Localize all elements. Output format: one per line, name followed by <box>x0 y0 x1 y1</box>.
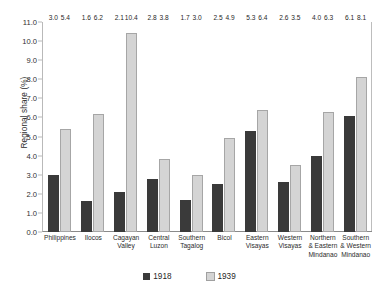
bar-column: 2.5 <box>212 22 223 232</box>
bar-value-label: 4.9 <box>225 14 234 21</box>
bar-value-label: 2.8 <box>148 14 157 21</box>
y-tick-mark <box>38 136 42 137</box>
y-tick-label: 5.0 <box>0 132 42 141</box>
bar-1918: 3.0 <box>48 175 59 232</box>
bar-value-label: 3.0 <box>192 14 201 21</box>
bar-1939: 3.0 <box>192 175 203 232</box>
bar-column: 3.0 <box>192 22 203 232</box>
bar-value-label: 1.6 <box>82 14 91 21</box>
y-tick-mark <box>38 79 42 80</box>
bar-1918: 1.6 <box>81 201 92 232</box>
y-tick-label: 9.0 <box>0 56 42 65</box>
y-tick-mark <box>38 212 42 213</box>
bar-1918: 5.3 <box>245 131 256 232</box>
x-tick-label: Eastern Visayas <box>241 234 274 259</box>
bar-value-label: 6.3 <box>324 14 333 21</box>
legend-swatch-icon <box>143 273 150 280</box>
bar-1918: 2.5 <box>212 184 223 232</box>
bar-1939: 8.1 <box>356 77 367 232</box>
bar-group: 4.06.3 <box>306 22 339 232</box>
bar-group: 2.54.9 <box>208 22 241 232</box>
bar-column: 5.3 <box>245 22 256 232</box>
legend-swatch-icon <box>206 272 215 281</box>
y-tick-label: 6.0 <box>0 113 42 122</box>
bar-column: 2.1 <box>114 22 125 232</box>
legend-item-1918[interactable]: 1918 <box>143 272 171 281</box>
x-tick-label: Southern Tagalog <box>175 234 208 259</box>
bar-1939: 6.4 <box>257 110 268 232</box>
legend-item-1939[interactable]: 1939 <box>206 272 236 281</box>
legend-label: 1939 <box>218 272 236 281</box>
legend-label: 1918 <box>153 272 171 281</box>
y-tick-mark <box>38 60 42 61</box>
bar-value-label: 4.0 <box>312 14 321 21</box>
y-tick-mark <box>38 193 42 194</box>
bar-column: 6.4 <box>257 22 268 232</box>
bar-1918: 6.1 <box>344 116 355 232</box>
bar-chart: Regional share (%) 11.010.09.08.07.06.05… <box>0 0 379 294</box>
bar-column: 6.1 <box>344 22 355 232</box>
bar-value-label: 5.4 <box>61 14 70 21</box>
y-tick-mark <box>38 155 42 156</box>
bar-value-label: 3.0 <box>49 14 58 21</box>
y-tick-mark <box>38 22 42 23</box>
bar-1939: 3.5 <box>290 165 301 232</box>
bar-value-label: 5.3 <box>246 14 255 21</box>
y-tick-label: 0.0 <box>0 228 42 237</box>
bar-value-label: 6.1 <box>345 14 354 21</box>
bar-group: 2.110.4 <box>109 22 142 232</box>
x-tick-label: Ilocos <box>77 234 110 259</box>
bar-value-label: 6.2 <box>94 14 103 21</box>
bar-value-label: 2.5 <box>213 14 222 21</box>
bar-column: 8.1 <box>356 22 367 232</box>
y-tick-label: 11.0 <box>0 18 42 27</box>
bar-1918: 2.6 <box>278 182 289 232</box>
bar-column: 1.6 <box>81 22 92 232</box>
bar-value-label: 1.7 <box>180 14 189 21</box>
bar-value-label: 8.1 <box>357 14 366 21</box>
y-tick-mark <box>38 232 42 233</box>
bar-value-label: 6.4 <box>258 14 267 21</box>
bar-column: 6.3 <box>323 22 334 232</box>
y-tick-mark <box>38 117 42 118</box>
bar-group: 2.63.5 <box>273 22 306 232</box>
x-axis-labels: PhilippinesIlocosCagayan ValleyCentral L… <box>43 234 372 259</box>
y-tick-mark <box>38 174 42 175</box>
y-tick-label: 1.0 <box>0 208 42 217</box>
bar-1939: 6.3 <box>323 112 334 232</box>
bar-1918: 2.1 <box>114 192 125 232</box>
bar-group: 6.18.1 <box>339 22 372 232</box>
x-tick-label: Southern & Western Mindanao <box>339 234 372 259</box>
y-tick-mark <box>38 98 42 99</box>
bar-1939: 6.2 <box>93 114 104 232</box>
x-tick-label: Cagayan Valley <box>110 234 143 259</box>
bar-column: 6.2 <box>93 22 104 232</box>
bar-column: 3.0 <box>48 22 59 232</box>
bar-1918: 1.7 <box>180 200 191 232</box>
bar-value-label: 3.8 <box>160 14 169 21</box>
bar-group: 3.05.4 <box>43 22 76 232</box>
bar-group: 1.66.2 <box>76 22 109 232</box>
bar-column: 4.0 <box>311 22 322 232</box>
bar-column: 5.4 <box>60 22 71 232</box>
y-tick-label: 7.0 <box>0 94 42 103</box>
bar-column: 2.8 <box>147 22 158 232</box>
y-tick-label: 2.0 <box>0 189 42 198</box>
bar-column: 10.4 <box>126 22 137 232</box>
y-tick-mark <box>38 41 42 42</box>
bar-column: 4.9 <box>224 22 235 232</box>
y-tick-label: 8.0 <box>0 75 42 84</box>
bar-1939: 10.4 <box>126 33 137 232</box>
bar-value-label: 2.6 <box>279 14 288 21</box>
bar-groups: 3.05.41.66.22.110.42.83.81.73.02.54.95.3… <box>43 22 372 232</box>
x-tick-label: Northern & Eastern Mindanao <box>306 234 339 259</box>
bar-1939: 5.4 <box>60 129 71 232</box>
bar-column: 1.7 <box>180 22 191 232</box>
y-tick-label: 4.0 <box>0 151 42 160</box>
bar-value-label: 10.4 <box>125 14 138 21</box>
x-tick-label: Philippines <box>43 234 77 259</box>
bar-column: 3.5 <box>290 22 301 232</box>
x-tick-label: Western Visayas <box>274 234 307 259</box>
bar-group: 5.36.4 <box>240 22 273 232</box>
bar-column: 2.6 <box>278 22 289 232</box>
